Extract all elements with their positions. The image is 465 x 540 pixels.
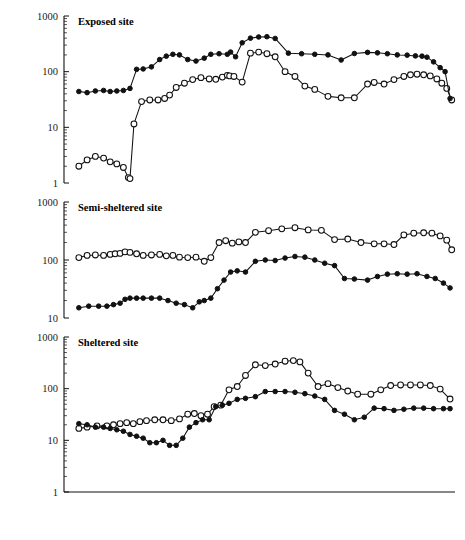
data-point-deep xyxy=(312,258,317,263)
data-point-deep xyxy=(134,67,139,72)
data-point-shallow xyxy=(429,230,435,236)
data-point-shallow xyxy=(408,72,414,78)
data-point-deep xyxy=(441,281,446,286)
data-point-shallow xyxy=(84,253,90,259)
data-point-deep xyxy=(293,254,298,259)
data-point-shallow xyxy=(206,76,212,82)
data-point-deep xyxy=(171,52,176,57)
data-point-shallow xyxy=(177,416,183,422)
data-point-shallow xyxy=(335,385,341,391)
data-point-shallow xyxy=(239,79,245,85)
data-point-deep xyxy=(111,302,116,307)
data-point-deep xyxy=(147,440,152,445)
data-point-deep xyxy=(240,41,245,46)
data-point-deep xyxy=(425,274,430,279)
data-point-deep xyxy=(411,406,416,411)
data-point-deep xyxy=(121,88,126,93)
data-point-shallow xyxy=(236,239,242,245)
data-point-shallow xyxy=(292,74,298,80)
data-point-shallow xyxy=(401,232,407,238)
data-point-deep xyxy=(286,51,291,56)
data-point-shallow xyxy=(223,238,229,244)
data-point-deep xyxy=(273,389,278,394)
data-point-deep xyxy=(141,296,146,301)
data-point-deep xyxy=(105,304,110,309)
data-point-deep xyxy=(174,301,179,306)
data-point-shallow xyxy=(444,237,450,243)
data-point-shallow xyxy=(76,163,82,169)
data-point-deep xyxy=(385,51,390,56)
data-point-deep xyxy=(273,258,278,263)
y-tick-label: 10 xyxy=(48,122,59,133)
data-point-shallow xyxy=(449,247,455,253)
data-point-deep xyxy=(421,406,426,411)
data-point-deep xyxy=(438,65,443,70)
data-point-deep xyxy=(161,438,166,443)
data-point-deep xyxy=(395,53,400,58)
data-point-shallow xyxy=(266,228,272,234)
data-point-shallow xyxy=(355,391,361,397)
data-point-shallow xyxy=(414,71,420,77)
data-point-shallow xyxy=(120,165,126,171)
data-point-shallow xyxy=(411,230,417,236)
data-point-shallow xyxy=(264,51,270,57)
data-point-deep xyxy=(299,51,304,56)
data-point-deep xyxy=(405,272,410,277)
data-point-shallow xyxy=(447,396,453,402)
data-point-shallow xyxy=(182,80,188,86)
data-point-deep xyxy=(405,53,410,58)
data-point-shallow xyxy=(305,370,311,376)
data-point-shallow xyxy=(437,233,443,239)
data-point-shallow xyxy=(279,226,285,232)
y-tick-label: 1 xyxy=(53,487,58,498)
data-point-shallow xyxy=(144,418,150,424)
data-point-deep xyxy=(141,67,146,72)
data-point-shallow xyxy=(427,73,433,79)
data-point-deep xyxy=(128,296,133,301)
data-point-deep xyxy=(77,305,82,310)
data-point-deep xyxy=(85,90,90,95)
data-point-deep xyxy=(352,417,357,422)
data-point-shallow xyxy=(185,255,191,261)
data-point-shallow xyxy=(401,74,407,80)
data-point-deep xyxy=(352,51,357,56)
data-point-deep xyxy=(185,57,190,62)
data-point-deep xyxy=(448,286,453,291)
data-point-shallow xyxy=(381,81,387,87)
data-point-deep xyxy=(202,56,207,61)
data-point-deep xyxy=(365,278,370,283)
data-point-shallow xyxy=(365,81,371,87)
data-point-shallow xyxy=(391,77,397,83)
data-point-shallow xyxy=(312,87,318,93)
data-point-shallow xyxy=(152,417,158,423)
data-point-deep xyxy=(187,425,192,430)
data-point-shallow xyxy=(427,383,433,389)
data-point-shallow xyxy=(157,251,163,257)
data-point-deep xyxy=(85,422,90,427)
data-point-deep xyxy=(339,58,344,63)
data-point-deep xyxy=(197,300,202,305)
data-point-shallow xyxy=(252,362,258,368)
data-point-shallow xyxy=(201,258,207,264)
data-point-shallow xyxy=(262,363,268,369)
data-point-deep xyxy=(443,69,448,74)
data-point-shallow xyxy=(114,161,120,167)
data-point-shallow xyxy=(149,252,155,258)
data-point-deep xyxy=(217,51,222,56)
data-point-shallow xyxy=(190,77,196,83)
data-point-deep xyxy=(121,429,126,434)
data-point-deep xyxy=(365,50,370,55)
data-point-shallow xyxy=(229,240,235,246)
data-point-shallow xyxy=(243,373,249,379)
data-point-shallow xyxy=(381,241,387,247)
data-point-deep xyxy=(134,434,139,439)
data-point-shallow xyxy=(272,361,278,367)
data-point-shallow xyxy=(302,83,308,89)
data-point-shallow xyxy=(417,382,423,388)
data-point-shallow xyxy=(140,253,146,259)
data-point-deep xyxy=(248,36,253,41)
data-point-deep xyxy=(243,396,248,401)
data-point-deep xyxy=(431,406,436,411)
y-tick-label: 100 xyxy=(42,66,58,77)
data-point-deep xyxy=(372,406,377,411)
